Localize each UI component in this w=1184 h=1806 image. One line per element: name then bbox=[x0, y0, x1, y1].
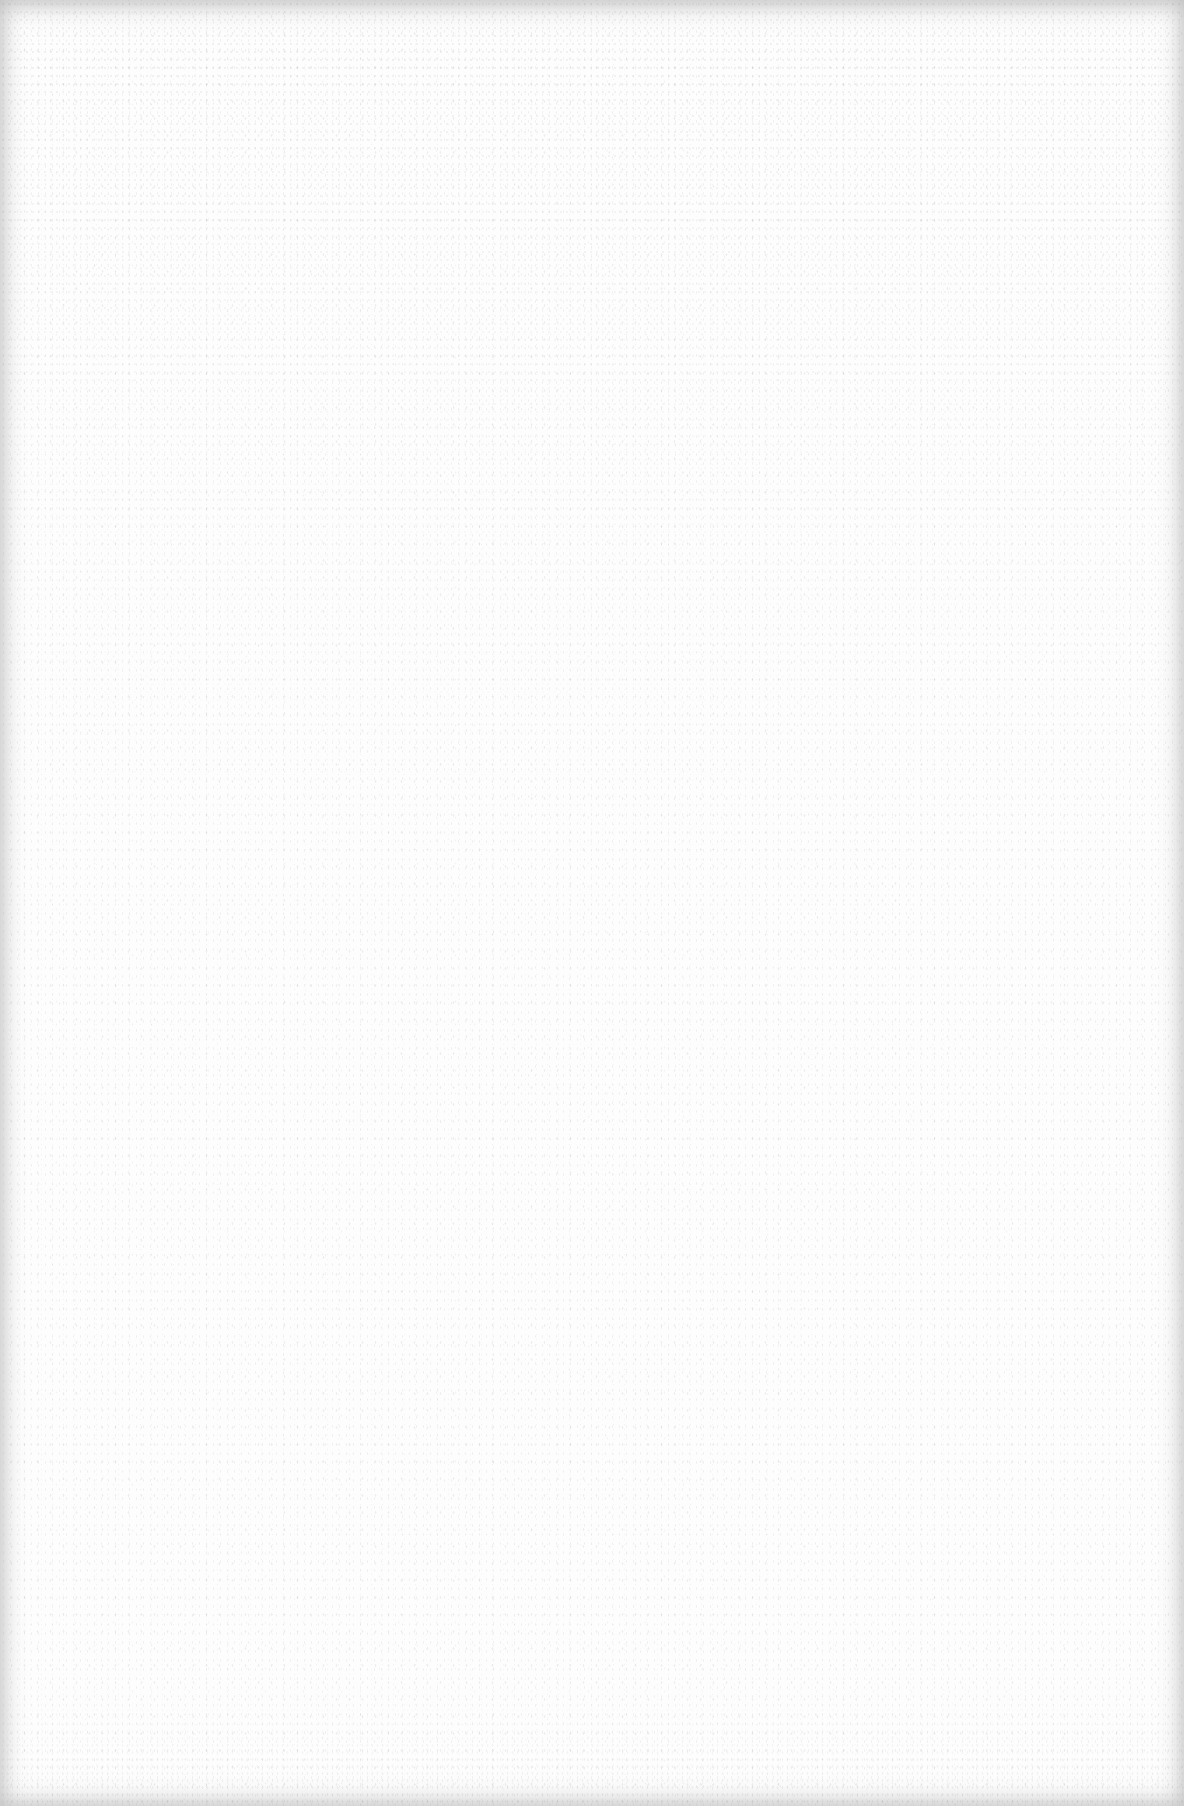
paper-speckle-top-band bbox=[0, 0, 1184, 900]
scan-edge-shading bbox=[0, 0, 1184, 1806]
paper-speckle-texture-secondary bbox=[0, 0, 1184, 1806]
blank-document-page bbox=[0, 0, 1184, 1806]
paper-speckle-bottom-band bbox=[0, 1686, 1184, 1806]
paper-speckle-texture bbox=[0, 0, 1184, 1806]
